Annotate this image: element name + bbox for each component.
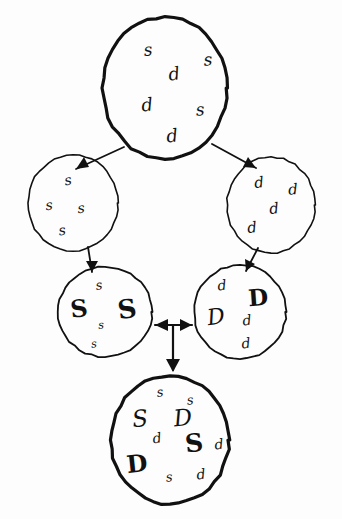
glyph-d-bold: D: [125, 451, 148, 477]
glyph-s-thin: s: [165, 470, 173, 484]
combined-set-contents: ssSDdSdDsd: [0, 0, 342, 519]
glyph-s-bold: S: [184, 430, 205, 457]
diagram-page: ssddsdssssddddsSSssdDDddssSDdSdDsd Hand-…: [0, 0, 342, 519]
glyph-s-thin: s: [156, 385, 164, 399]
glyph-d-thin: d: [152, 430, 163, 445]
glyph-d-thin: d: [196, 467, 206, 482]
glyph-d-outline: D: [173, 406, 194, 431]
glyph-s-outline: S: [131, 407, 149, 432]
set-contents-layer: ssddsdssssddddsSSssdDDddssSDdSdDsd: [0, 0, 342, 519]
glyph-d-thin: d: [214, 437, 224, 452]
